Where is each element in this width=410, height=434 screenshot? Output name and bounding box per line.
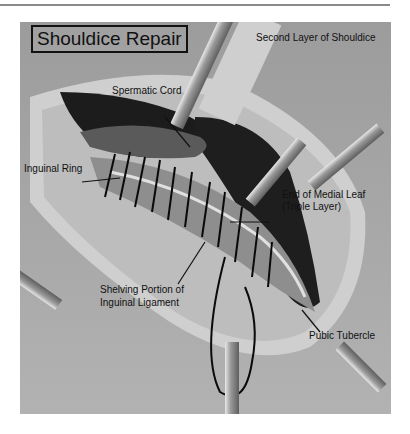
- spermatic-cord-label: Spermatic Cord: [112, 85, 181, 97]
- end-medial-leaf-label-line1: End of Medial Leaf: [282, 189, 365, 201]
- figure-title: Shouldice Repair: [31, 25, 188, 53]
- surgical-illustration: Shouldice Repair Second Layer of Shouldi…: [20, 22, 391, 414]
- inguinal-ring-label: Inguinal Ring: [24, 163, 82, 175]
- pubic-tubercle-label: Pubic Tubercle: [309, 330, 375, 342]
- shelving-portion-label-line2: Inguinal Ligament: [100, 297, 179, 309]
- subtitle-label: Second Layer of Shouldice: [256, 32, 376, 44]
- shelving-portion-label-line1: Shelving Portion of: [100, 284, 184, 296]
- end-medial-leaf-label-line2: (Triple Layer): [282, 201, 341, 213]
- top-divider: [0, 4, 390, 6]
- illustration-artwork: [20, 22, 391, 414]
